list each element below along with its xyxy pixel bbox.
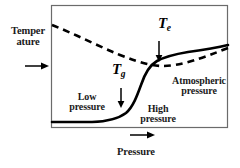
tg-label-base: T bbox=[112, 61, 121, 77]
y-axis-arrow-right-icon bbox=[25, 63, 49, 70]
high-pressure-label: High pressure bbox=[128, 104, 188, 124]
tg-arrow-down-icon bbox=[118, 88, 125, 108]
high-pressure-line2: pressure bbox=[128, 114, 188, 124]
x-axis-label: Pressure bbox=[104, 147, 168, 158]
tg-label-subscript: g bbox=[121, 69, 126, 79]
tg-label: Tg bbox=[112, 60, 125, 79]
te-label-subscript: e bbox=[167, 23, 171, 33]
temperature-pressure-figure: Temper ature Pressure Te Tg Low pressure… bbox=[0, 0, 240, 168]
te-label: Te bbox=[158, 14, 171, 33]
atmospheric-pressure-line2: pressure bbox=[162, 86, 236, 96]
y-axis-label: Temper ature bbox=[2, 26, 54, 47]
atmospheric-pressure-label: Atmospheric pressure bbox=[162, 76, 236, 96]
te-label-base: T bbox=[158, 15, 167, 31]
low-pressure-label: Low pressure bbox=[58, 92, 116, 112]
curve-te-dashed bbox=[52, 25, 228, 66]
y-axis-label-line2: ature bbox=[2, 37, 54, 48]
x-axis-arrow-right-icon bbox=[130, 132, 155, 139]
low-pressure-line2: pressure bbox=[58, 102, 116, 112]
